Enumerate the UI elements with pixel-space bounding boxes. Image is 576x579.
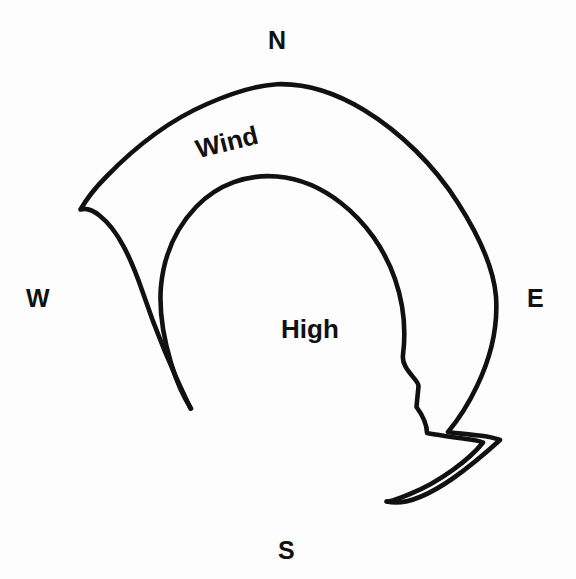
wind-circulation-figure: N W E S Wind High xyxy=(0,0,576,579)
wind-arrow-drawing xyxy=(0,0,576,579)
curved-arrow-outline xyxy=(81,84,501,502)
compass-label-south: S xyxy=(278,538,295,563)
compass-label-north: N xyxy=(268,28,287,53)
compass-label-west: W xyxy=(26,286,50,311)
compass-label-east: E xyxy=(527,286,544,311)
arrow-outer-edge xyxy=(81,84,501,502)
high-pressure-label: High xyxy=(281,316,339,342)
